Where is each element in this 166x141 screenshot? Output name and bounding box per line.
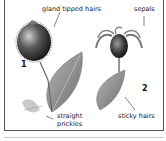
label-sepals: sepals [134,6,155,13]
panel-number-1: 1 [21,60,27,69]
label-straight: straight [57,113,82,120]
panel-2-drawing [96,16,144,110]
panel-number-2: 2 [142,84,148,93]
label-prickles: prickles [57,121,82,128]
label-gland-tipped-hairs: gland tipped hairs [42,6,101,13]
bottom-divider [4,137,164,138]
label-sticky-hairs: sticky hairs [118,113,155,120]
